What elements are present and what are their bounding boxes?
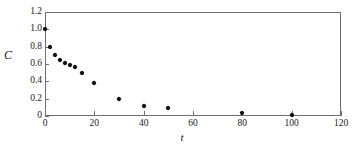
y-axis-tick-marks bbox=[45, 12, 50, 116]
y-axis-tick-label: 1.2 bbox=[16, 7, 42, 17]
x-axis-tick-mark bbox=[292, 111, 293, 116]
x-axis-tick-mark bbox=[45, 111, 46, 116]
y-axis-tick-labels: 00.20.40.60.81.01.2 bbox=[12, 12, 42, 116]
x-axis-tick-label: 60 bbox=[178, 118, 208, 128]
y-axis-tick-mark bbox=[45, 29, 49, 30]
x-axis-tick-label: 0 bbox=[30, 118, 60, 128]
scatter-chart-figure: 00.20.40.60.81.01.2 020406080100120 C t bbox=[0, 0, 364, 149]
y-axis-tick-label: 1.0 bbox=[16, 24, 42, 34]
y-axis-tick-mark bbox=[45, 12, 49, 13]
y-axis-tick-label: 0.2 bbox=[16, 94, 42, 104]
x-axis-title: t bbox=[0, 131, 364, 143]
x-axis-tick-label: 40 bbox=[129, 118, 159, 128]
y-axis-tick-mark bbox=[45, 99, 49, 100]
x-axis-tick-mark bbox=[94, 111, 95, 116]
y-axis-tick-label: 0.4 bbox=[16, 76, 42, 86]
x-axis-tick-marks bbox=[45, 111, 341, 116]
x-axis-tick-label: 20 bbox=[79, 118, 109, 128]
y-axis-title: C bbox=[4, 48, 12, 63]
x-axis-tick-mark bbox=[144, 111, 145, 116]
y-axis-tick-mark bbox=[45, 47, 49, 48]
y-axis-tick-mark bbox=[45, 116, 49, 117]
x-axis-tick-labels: 020406080100120 bbox=[45, 118, 341, 130]
x-axis-tick-mark bbox=[341, 111, 342, 116]
plot-frame bbox=[45, 12, 341, 116]
x-axis-tick-mark bbox=[242, 111, 243, 116]
x-axis-tick-label: 100 bbox=[277, 118, 307, 128]
y-axis-tick-label: 0.6 bbox=[16, 59, 42, 69]
y-axis-tick-mark bbox=[45, 81, 49, 82]
y-axis-tick-mark bbox=[45, 64, 49, 65]
x-axis-tick-label: 120 bbox=[326, 118, 356, 128]
x-axis-tick-mark bbox=[193, 111, 194, 116]
x-axis-tick-label: 80 bbox=[227, 118, 257, 128]
y-axis-tick-label: 0.8 bbox=[16, 42, 42, 52]
